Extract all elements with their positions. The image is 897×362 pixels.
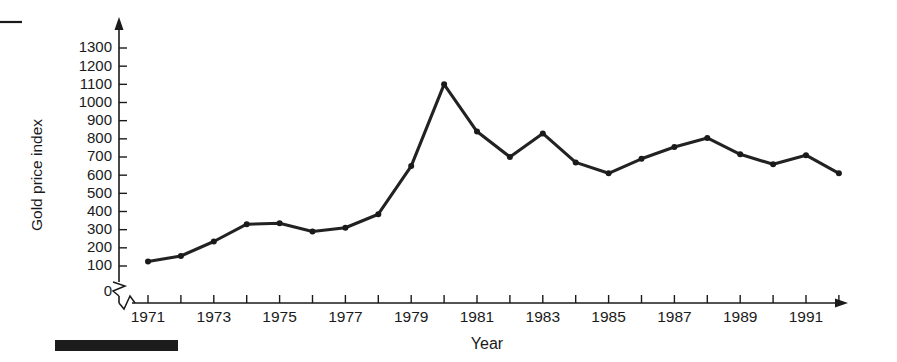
x-tick-label-1985: 1985: [591, 308, 625, 325]
footer-black-bar: [55, 340, 178, 351]
data-point-1986: [639, 156, 645, 162]
x-tick-labels: 1971197319751977197919811983198519871989…: [131, 308, 823, 325]
y-axis-arrowhead: [115, 17, 124, 30]
x-axis-title: Year: [471, 335, 504, 352]
data-point-1972: [178, 253, 184, 259]
y-tick-labels: 0100200300400500600700800900100011001200…: [79, 38, 112, 299]
data-point-1979: [408, 163, 414, 169]
y-tick-label-400: 400: [87, 202, 112, 219]
data-point-1989: [737, 151, 743, 157]
x-tick-label-1977: 1977: [328, 308, 362, 325]
y-tick-marks: [119, 48, 127, 266]
y-tick-label-500: 500: [87, 184, 112, 201]
gold-price-index-line-chart: 0100200300400500600700800900100011001200…: [0, 0, 897, 362]
data-point-1984: [573, 159, 579, 165]
x-tick-marks: [148, 295, 839, 303]
x-tick-label-1981: 1981: [460, 308, 494, 325]
data-point-1976: [310, 229, 316, 235]
y-tick-label-700: 700: [87, 147, 112, 164]
x-tick-label-1975: 1975: [262, 308, 296, 325]
y-tick-label-900: 900: [87, 111, 112, 128]
data-point-1991: [803, 152, 809, 158]
y-tick-label-300: 300: [87, 220, 112, 237]
data-point-1978: [375, 211, 381, 217]
x-axis-group: 1971197319751977197919811983198519871989…: [119, 295, 848, 352]
series-markers: [145, 81, 842, 264]
data-point-1973: [211, 239, 217, 245]
x-tick-label-1989: 1989: [723, 308, 757, 325]
y-tick-label-1100: 1100: [80, 75, 112, 92]
x-tick-label-1971: 1971: [131, 308, 165, 325]
y-axis-title: Gold price index: [28, 119, 45, 231]
series-line-gold-price-index: [148, 84, 839, 261]
x-tick-label-1991: 1991: [789, 308, 823, 325]
data-point-1988: [704, 135, 710, 141]
x-tick-label-1979: 1979: [394, 308, 428, 325]
y-tick-label-100: 100: [87, 256, 112, 273]
data-point-1981: [474, 129, 480, 135]
y-tick-label-0: 0: [104, 282, 112, 299]
x-tick-label-1983: 1983: [526, 308, 560, 325]
data-point-1985: [606, 170, 612, 176]
x-tick-label-1987: 1987: [657, 308, 691, 325]
x-tick-label-1973: 1973: [197, 308, 231, 325]
data-point-1983: [540, 130, 546, 136]
data-point-1975: [277, 220, 283, 226]
y-axis-break-symbol: [113, 282, 125, 296]
y-tick-label-600: 600: [87, 166, 112, 183]
data-point-1971: [145, 259, 151, 265]
data-point-1992: [836, 170, 842, 176]
data-point-1977: [342, 225, 348, 231]
y-tick-label-1000: 1000: [79, 93, 112, 110]
x-axis-arrowhead: [835, 299, 848, 308]
y-axis-group: 0100200300400500600700800900100011001200…: [28, 17, 127, 303]
y-tick-label-1300: 1300: [79, 38, 112, 55]
y-tick-label-1200: 1200: [79, 57, 112, 74]
data-series-group: [145, 81, 842, 264]
data-point-1980: [441, 81, 447, 87]
data-point-1974: [244, 221, 250, 227]
figure-container: 0100200300400500600700800900100011001200…: [0, 0, 897, 362]
y-tick-label-200: 200: [87, 238, 112, 255]
y-tick-label-800: 800: [87, 129, 112, 146]
data-point-1982: [507, 154, 513, 160]
data-point-1987: [671, 144, 677, 150]
data-point-1990: [770, 161, 776, 167]
